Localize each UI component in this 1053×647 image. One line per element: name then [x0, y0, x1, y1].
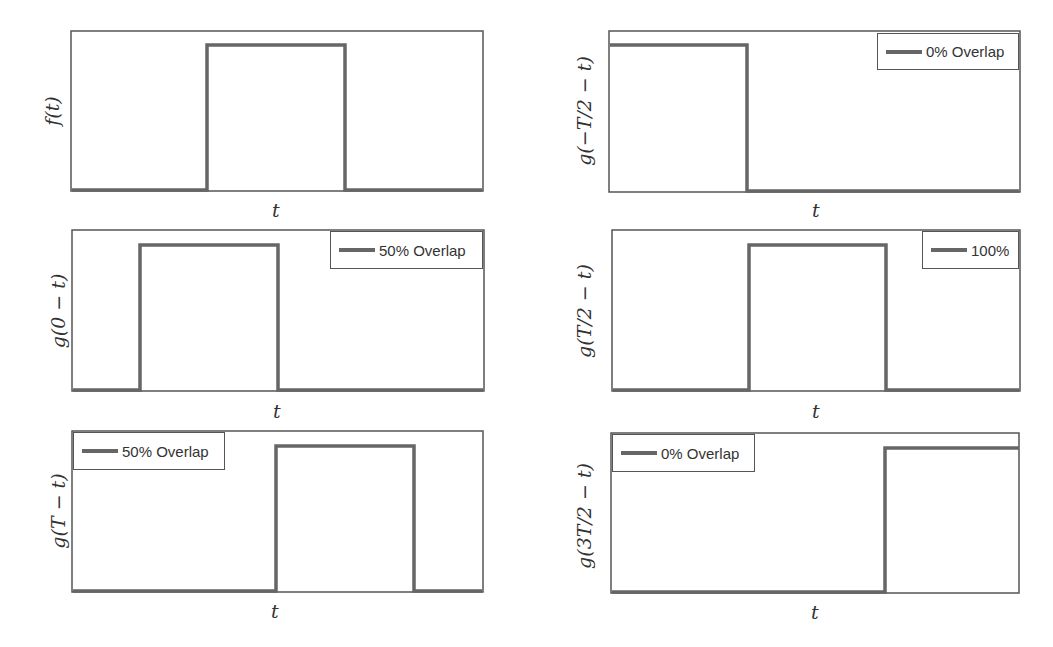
x-axis-label: t	[272, 199, 280, 221]
x-axis-label: t	[812, 199, 820, 221]
legend-label: 50% Overlap	[379, 242, 466, 259]
legend: 0% Overlap	[612, 434, 755, 472]
x-axis-label: t	[273, 400, 281, 422]
panel-g-half-t: g(T/2 − t) t 100%	[526, 220, 1053, 420]
legend: 50% Overlap	[73, 432, 225, 470]
legend-label: 0% Overlap	[926, 43, 1004, 60]
y-axis-label: g(−T/2 − t)	[573, 31, 595, 191]
legend-swatch	[886, 50, 922, 54]
legend-swatch	[339, 248, 375, 252]
y-axis-label: g(0 − t)	[47, 251, 69, 371]
panel-f-t: f(t) t	[0, 0, 526, 220]
y-axis-label: g(3T/2 − t)	[573, 436, 595, 596]
x-axis-label: t	[271, 600, 279, 622]
plot-g-3half-t	[526, 420, 1053, 647]
legend-swatch	[931, 248, 967, 252]
x-axis-label: t	[812, 400, 820, 422]
y-axis-label: g(T − t)	[47, 451, 69, 571]
legend-label: 100%	[971, 242, 1009, 259]
panel-g-3half-t: g(3T/2 − t) t 0% Overlap	[526, 420, 1053, 647]
plot-f-t	[0, 0, 526, 220]
legend: 100%	[922, 231, 1019, 269]
y-axis-label: f(t)	[41, 71, 63, 151]
legend: 0% Overlap	[877, 33, 1019, 70]
axes-box	[71, 31, 483, 191]
legend-label: 50% Overlap	[122, 443, 209, 460]
panel-g-0-t: g(0 − t) t 50% Overlap	[0, 220, 526, 420]
y-axis-label: g(T/2 − t)	[573, 241, 595, 381]
legend-label: 0% Overlap	[661, 445, 739, 462]
signal-line	[72, 45, 482, 190]
legend: 50% Overlap	[330, 231, 483, 269]
x-axis-label: t	[811, 601, 819, 623]
panel-g-neg-half-t: g(−T/2 − t) t 0% Overlap	[526, 0, 1053, 220]
legend-swatch	[621, 451, 657, 455]
panel-g-T-t: g(T − t) t 50% Overlap	[0, 420, 526, 647]
legend-swatch	[82, 449, 118, 453]
